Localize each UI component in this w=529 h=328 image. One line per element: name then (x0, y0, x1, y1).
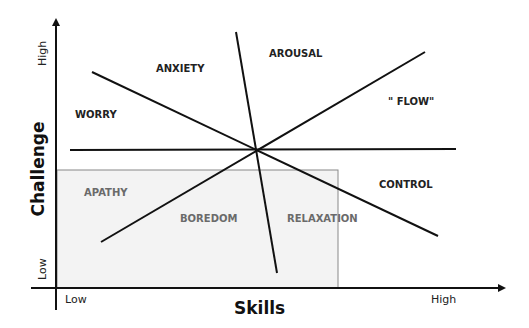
y-axis-low-label: Low (36, 258, 49, 280)
region-label-apathy: APATHY (84, 187, 128, 198)
region-label-relaxation: RELAXATION (287, 213, 358, 224)
y-axis-arrow-icon (52, 18, 60, 26)
region-label-arousal: AROUSAL (269, 48, 323, 59)
region-label-boredom: BOREDOM (180, 213, 237, 224)
x-axis-low-label: Low (65, 293, 87, 306)
flow-diagram: ANXIETY AROUSAL WORRY " FLOW" APATHY BOR… (0, 0, 529, 328)
region-label-worry: WORRY (75, 109, 117, 120)
horizontal-divider (70, 149, 456, 150)
y-axis-high-label: High (36, 41, 49, 66)
x-axis-title: Skills (234, 298, 285, 318)
region-label-anxiety: ANXIETY (156, 63, 205, 74)
region-label-control: CONTROL (379, 179, 433, 190)
region-label-flow: " FLOW" (388, 96, 434, 107)
x-axis-high-label: High (431, 293, 456, 306)
y-axis-title: Challenge (28, 121, 48, 216)
x-axis-arrow-icon (498, 284, 506, 292)
